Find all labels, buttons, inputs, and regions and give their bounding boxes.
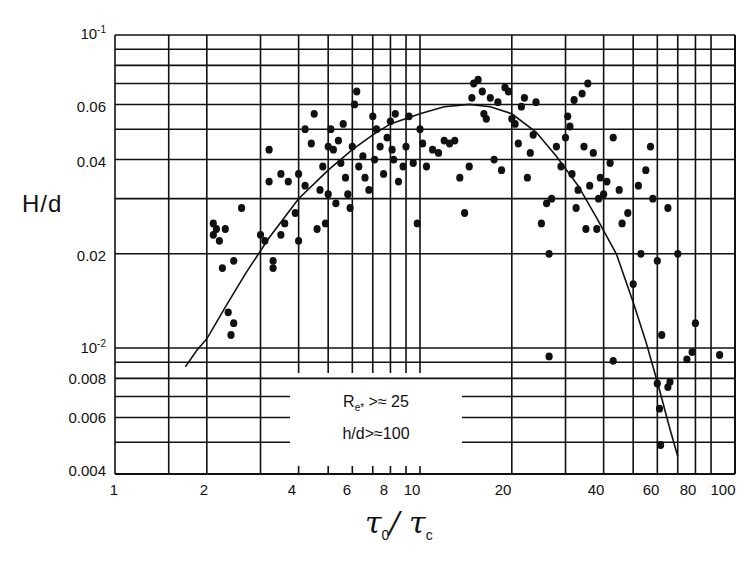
data-point xyxy=(402,143,409,151)
data-point xyxy=(281,220,288,228)
data-point xyxy=(600,190,607,198)
data-point xyxy=(344,190,351,198)
data-point xyxy=(664,204,671,212)
data-point xyxy=(389,146,396,154)
data-point xyxy=(351,101,358,109)
data-point xyxy=(475,76,482,84)
data-point xyxy=(322,220,329,228)
data-point xyxy=(635,182,642,190)
data-point xyxy=(227,331,234,339)
data-point xyxy=(630,280,637,288)
data-point xyxy=(548,195,555,203)
data-point xyxy=(261,237,268,245)
data-point xyxy=(557,163,564,171)
data-point xyxy=(573,204,580,212)
data-point xyxy=(483,115,490,123)
data-point xyxy=(649,195,656,203)
data-point xyxy=(571,96,578,104)
data-point xyxy=(423,163,430,171)
data-point xyxy=(546,250,553,258)
data-point xyxy=(568,170,575,178)
data-point xyxy=(230,319,237,327)
data-point xyxy=(319,163,326,171)
data-point xyxy=(295,170,302,178)
data-point xyxy=(524,174,531,182)
data-point xyxy=(325,190,332,198)
data-point xyxy=(657,441,664,449)
data-point xyxy=(461,209,468,217)
data-point xyxy=(553,143,560,151)
y-tick-label: 0.004 xyxy=(46,462,106,479)
data-point xyxy=(419,140,426,148)
data-point xyxy=(487,94,494,102)
data-point xyxy=(603,178,610,186)
data-point xyxy=(337,159,344,167)
y-tick-label: 0.02 xyxy=(46,247,106,264)
data-point xyxy=(266,178,273,186)
data-point xyxy=(456,174,463,182)
data-point xyxy=(311,110,318,118)
data-point xyxy=(658,331,665,339)
data-point xyxy=(392,110,399,118)
data-point xyxy=(491,156,498,164)
y-axis-title: H/d xyxy=(22,190,62,218)
data-point xyxy=(590,149,597,157)
data-point xyxy=(384,134,391,142)
data-point xyxy=(683,355,690,363)
data-point xyxy=(316,186,323,194)
x-tick-label: 1 xyxy=(94,481,134,498)
data-point xyxy=(416,125,423,133)
data-point xyxy=(532,98,539,106)
data-point xyxy=(566,123,573,131)
data-point xyxy=(692,319,699,327)
y-tick-label: 0.008 xyxy=(46,370,106,387)
data-point xyxy=(270,264,277,272)
x-tick-label: 4 xyxy=(272,481,312,498)
data-point xyxy=(332,199,339,207)
data-point xyxy=(451,137,458,145)
data-point xyxy=(292,209,299,217)
annotation-box: Re* >≈ 25 h/d>≈100 xyxy=(290,383,462,455)
y-tick-label: 10-1 xyxy=(46,24,106,42)
data-point xyxy=(610,357,617,365)
data-point xyxy=(505,88,512,96)
data-point xyxy=(654,257,661,265)
data-point xyxy=(219,264,226,272)
data-point xyxy=(654,380,661,388)
data-point xyxy=(538,220,545,228)
data-point xyxy=(213,225,220,233)
data-point xyxy=(579,90,586,98)
data-point xyxy=(353,88,360,96)
data-point xyxy=(330,146,337,154)
data-point xyxy=(521,94,528,102)
data-point xyxy=(562,134,569,142)
data-point xyxy=(395,178,402,186)
data-point xyxy=(597,174,604,182)
data-point xyxy=(342,174,349,182)
data-point xyxy=(314,225,321,233)
data-point xyxy=(410,159,417,167)
data-point xyxy=(222,225,229,233)
x-tick-label: 20 xyxy=(483,481,523,498)
data-point xyxy=(365,186,372,194)
data-point xyxy=(580,143,587,151)
data-point xyxy=(335,137,342,145)
data-point xyxy=(380,170,387,178)
y-tick-label: 0.04 xyxy=(46,153,106,170)
data-point xyxy=(295,237,302,245)
data-point xyxy=(238,204,245,212)
data-point xyxy=(225,308,232,316)
data-point xyxy=(527,149,534,157)
data-point xyxy=(371,156,378,164)
data-point xyxy=(277,231,284,239)
x-tick-label: 10 xyxy=(392,481,432,498)
y-tick-label: 10-2 xyxy=(46,338,106,356)
data-point xyxy=(616,186,623,194)
x-tick-label: 100 xyxy=(703,481,743,498)
annotation-depth-ratio: h/d>≈100 xyxy=(290,421,462,447)
data-point xyxy=(498,166,505,174)
data-point xyxy=(347,204,354,212)
data-point xyxy=(468,94,475,102)
data-point xyxy=(405,112,412,120)
data-point xyxy=(530,131,537,139)
